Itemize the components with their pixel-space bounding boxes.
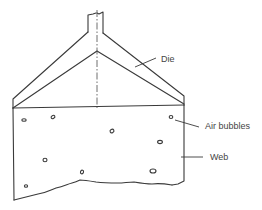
die-body: [13, 32, 184, 108]
air-bubbles: [22, 115, 173, 188]
diagram-canvas: [0, 0, 262, 210]
web: [13, 105, 184, 200]
die-label: Die: [161, 55, 175, 64]
die-web-diagram: Die Air bubbles Web: [0, 0, 262, 210]
die-stem: [88, 12, 103, 33]
air-bubbles-leader-line: [175, 120, 199, 127]
air-bubbles-label: Air bubbles: [205, 122, 250, 131]
web-label: Web: [210, 153, 228, 162]
